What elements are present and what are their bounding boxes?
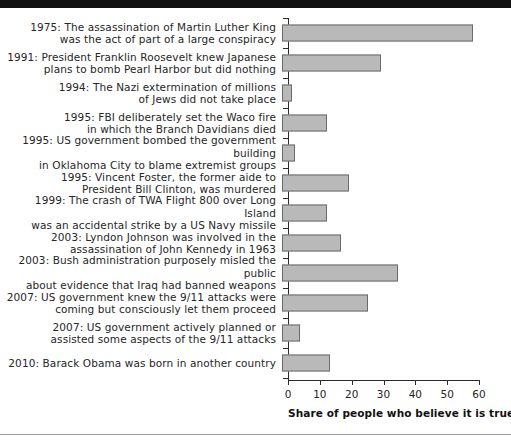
y-axis-tick [283, 48, 288, 49]
y-axis-tick [283, 78, 288, 79]
chart-row: 2007: US government actively planned or … [0, 318, 511, 348]
chart-row: 1994: The Nazi extermination of millions… [0, 78, 511, 108]
category-label: 1991: President Franklin Roosevelt knew … [0, 51, 282, 76]
bar-cell [282, 108, 511, 138]
chart-row: 1991: President Franklin Roosevelt knew … [0, 48, 511, 78]
x-axis-tick [352, 380, 353, 385]
bar-cell [282, 18, 511, 48]
category-label: 2007: US government knew the 9/11 attack… [0, 291, 282, 316]
chart-row: 2003: Bush administration purposely misl… [0, 258, 511, 288]
bottom-divider [0, 434, 511, 435]
category-label: 2003: Bush administration purposely misl… [0, 254, 282, 292]
y-axis-tick [283, 138, 288, 139]
bar [282, 55, 381, 72]
x-axis-tick-label: 60 [464, 388, 494, 400]
chart-page: 1975: The assassination of Martin Luther… [0, 0, 511, 442]
category-label: 1999: The crash of TWA Flight 800 over L… [0, 194, 282, 232]
y-axis-tick [283, 378, 288, 379]
bar [282, 325, 300, 342]
bar [282, 295, 368, 312]
x-axis-tick-label: 10 [305, 388, 335, 400]
y-axis-tick [283, 348, 288, 349]
bar-cell [282, 258, 511, 288]
x-axis-tick [384, 380, 385, 385]
bar-cell [282, 228, 511, 258]
bar-cell [282, 48, 511, 78]
bar [282, 145, 295, 162]
bar [282, 355, 330, 372]
y-axis-tick [283, 258, 288, 259]
x-axis-tick [415, 380, 416, 385]
x-axis-tick [447, 380, 448, 385]
y-axis-tick [283, 288, 288, 289]
category-label: 2010: Barack Obama was born in another c… [0, 357, 282, 370]
x-axis-tick [288, 380, 289, 385]
bar [282, 115, 327, 132]
x-axis-tick-label: 30 [369, 388, 399, 400]
chart-row: 1999: The crash of TWA Flight 800 over L… [0, 198, 511, 228]
chart-row: 1995: US government bombed the governmen… [0, 138, 511, 168]
bar-cell [282, 318, 511, 348]
category-label: 2003: Lyndon Johnson was involved in the… [0, 231, 282, 256]
bar [282, 235, 341, 252]
x-axis-tick [320, 380, 321, 385]
y-axis-tick [283, 228, 288, 229]
bar-cell [282, 168, 511, 198]
x-axis-tick-label: 50 [432, 388, 462, 400]
bar [282, 85, 292, 102]
chart-row: 2007: US government knew the 9/11 attack… [0, 288, 511, 318]
top-black-band [0, 0, 511, 8]
y-axis-tick [283, 168, 288, 169]
x-axis-title: Share of people who believe it is true (… [288, 407, 479, 419]
bar-chart: 1975: The assassination of Martin Luther… [0, 12, 511, 432]
bar-cell [282, 78, 511, 108]
chart-row: 1975: The assassination of Martin Luther… [0, 18, 511, 48]
chart-row: 2010: Barack Obama was born in another c… [0, 348, 511, 378]
category-label: 1995: FBI deliberately set the Waco fire… [0, 111, 282, 136]
category-label: 1994: The Nazi extermination of millions… [0, 81, 282, 106]
x-axis-tick [479, 380, 480, 385]
bar-cell [282, 288, 511, 318]
category-label: 2007: US government actively planned or … [0, 321, 282, 346]
x-axis-tick-label: 0 [273, 388, 303, 400]
y-axis-tick [283, 318, 288, 319]
bar [282, 265, 398, 282]
category-label: 1995: US government bombed the governmen… [0, 134, 282, 172]
category-label: 1995: Vincent Foster, the former aide to… [0, 171, 282, 196]
bar-cell [282, 348, 511, 378]
x-axis-tick-label: 40 [400, 388, 430, 400]
x-axis-tick-label: 20 [337, 388, 367, 400]
category-label: 1975: The assassination of Martin Luther… [0, 21, 282, 46]
y-axis-tick [283, 18, 288, 19]
bar-cell [282, 138, 511, 168]
bar [282, 175, 349, 192]
bar [282, 205, 327, 222]
y-axis-tick [283, 108, 288, 109]
y-axis-tick [283, 198, 288, 199]
bar-cell [282, 198, 511, 228]
bar [282, 25, 473, 42]
